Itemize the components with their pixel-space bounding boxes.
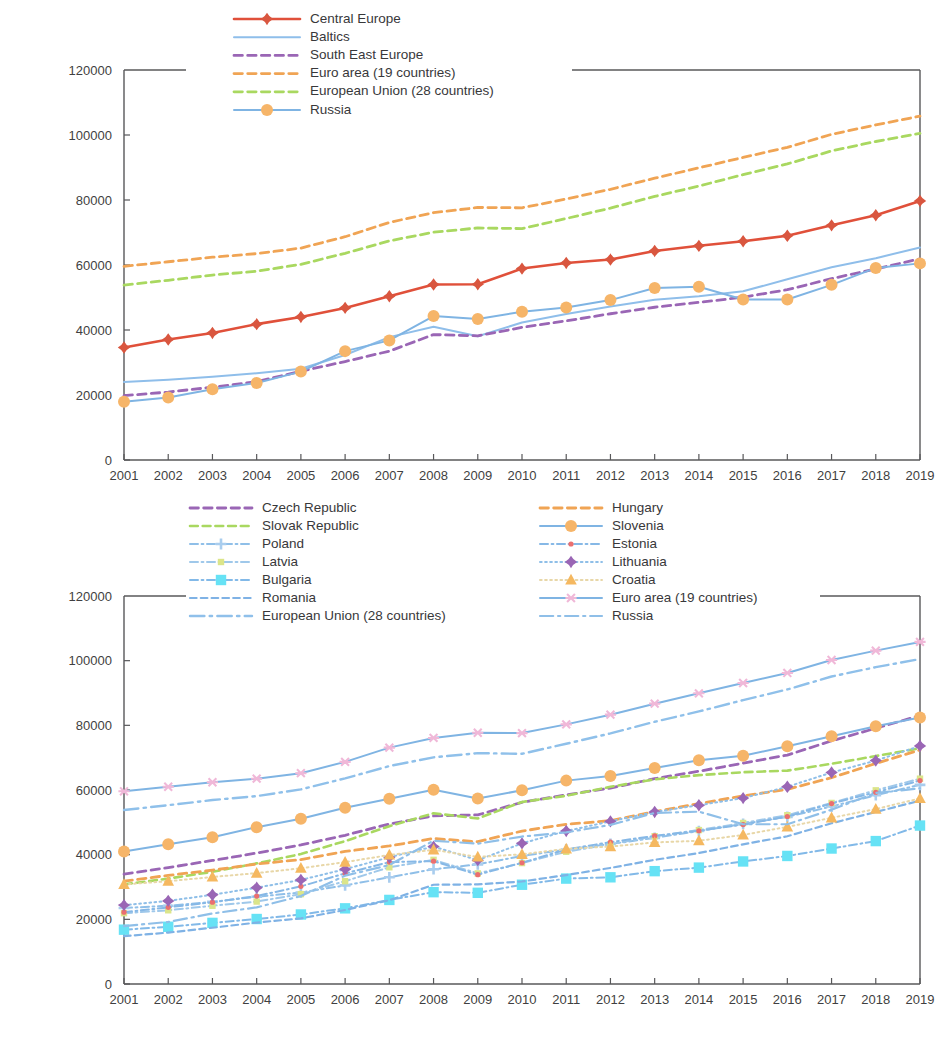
legend-label: Estonia bbox=[612, 536, 658, 551]
series-layer bbox=[118, 116, 926, 408]
x-tick-label: 2009 bbox=[463, 992, 492, 1007]
y-tick-label: 20000 bbox=[76, 912, 112, 927]
x-tick-label: 2013 bbox=[640, 468, 669, 483]
data-point-marker bbox=[218, 559, 224, 565]
data-point-marker bbox=[427, 278, 439, 290]
data-point-marker bbox=[516, 837, 528, 849]
data-point-marker bbox=[914, 792, 926, 803]
data-point-marker bbox=[207, 778, 218, 786]
data-point-marker bbox=[473, 888, 483, 898]
data-point-marker bbox=[785, 814, 790, 819]
legend-label: Lithuania bbox=[612, 554, 667, 569]
data-point-marker bbox=[870, 720, 882, 732]
y-tick-label: 60000 bbox=[76, 258, 112, 273]
data-point-marker bbox=[516, 784, 528, 796]
legend-swatch bbox=[234, 104, 300, 116]
data-point-marker bbox=[649, 700, 660, 708]
data-point-marker bbox=[295, 366, 307, 378]
data-point-marker bbox=[648, 245, 660, 257]
x-tick-label: 2018 bbox=[861, 992, 890, 1007]
x-axis-ticks: 2001200220032004200520062007200820092010… bbox=[110, 978, 935, 1007]
x-tick-label: 2014 bbox=[684, 992, 713, 1007]
data-point-marker bbox=[826, 812, 838, 823]
data-point-marker bbox=[516, 306, 528, 318]
data-point-marker bbox=[118, 396, 130, 408]
data-point-marker bbox=[826, 656, 837, 664]
x-tick-label: 2019 bbox=[906, 992, 935, 1007]
data-point-marker bbox=[340, 758, 351, 766]
data-point-marker bbox=[216, 575, 226, 585]
countries-chart-legend: Czech RepublicSlovak RepublicPolandLatvi… bbox=[190, 500, 758, 623]
data-point-marker bbox=[565, 556, 577, 568]
data-point-marker bbox=[254, 893, 259, 898]
x-tick-label: 2015 bbox=[729, 992, 758, 1007]
data-point-marker bbox=[826, 843, 836, 853]
data-point-marker bbox=[604, 253, 616, 265]
data-point-marker bbox=[206, 383, 218, 395]
data-point-marker bbox=[475, 872, 480, 877]
data-point-marker bbox=[383, 793, 395, 805]
data-point-marker bbox=[339, 345, 351, 357]
data-point-marker bbox=[295, 813, 307, 825]
x-axis-ticks: 2001200220032004200520062007200820092010… bbox=[110, 454, 935, 483]
x-tick-label: 2009 bbox=[463, 468, 492, 483]
data-point-marker bbox=[250, 881, 262, 893]
x-tick-label: 2016 bbox=[773, 468, 802, 483]
data-point-marker bbox=[737, 235, 749, 247]
data-point-marker bbox=[383, 290, 395, 302]
countries-chart-panel: 0200004000060000800001000001200002001200… bbox=[0, 500, 936, 1056]
legend-label: European Union (28 countries) bbox=[262, 608, 446, 623]
data-point-marker bbox=[649, 282, 661, 294]
data-point-marker bbox=[342, 878, 348, 884]
data-point-marker bbox=[339, 302, 351, 314]
y-tick-label: 80000 bbox=[76, 718, 112, 733]
legend-label: Euro area (19 countries) bbox=[310, 65, 456, 80]
series-russia bbox=[118, 257, 926, 407]
legend-label: Euro area (19 countries) bbox=[612, 590, 758, 605]
data-point-marker bbox=[693, 689, 704, 697]
x-tick-label: 2003 bbox=[198, 992, 227, 1007]
x-tick-label: 2006 bbox=[331, 468, 360, 483]
data-point-marker bbox=[782, 669, 793, 677]
data-point-marker bbox=[914, 195, 926, 207]
x-tick-label: 2001 bbox=[110, 992, 139, 1007]
legend-label: Bulgaria bbox=[262, 572, 312, 587]
data-point-marker bbox=[825, 219, 837, 231]
x-tick-label: 2008 bbox=[419, 992, 448, 1007]
data-point-marker bbox=[251, 821, 263, 833]
data-point-marker bbox=[162, 392, 174, 404]
x-tick-label: 2012 bbox=[596, 992, 625, 1007]
data-point-marker bbox=[781, 230, 793, 242]
data-point-marker bbox=[118, 845, 130, 857]
x-tick-label: 2008 bbox=[419, 468, 448, 483]
legend-label: Slovak Republic bbox=[262, 518, 359, 533]
series-line bbox=[124, 263, 920, 401]
data-point-marker bbox=[738, 679, 749, 687]
legend-label: Croatia bbox=[612, 572, 656, 587]
legend-label: Latvia bbox=[262, 554, 299, 569]
data-point-marker bbox=[560, 775, 572, 787]
x-tick-label: 2002 bbox=[154, 468, 183, 483]
legend-label: Central Europe bbox=[310, 11, 401, 26]
data-point-marker bbox=[568, 541, 573, 546]
data-point-marker bbox=[519, 860, 524, 865]
data-point-marker bbox=[295, 862, 307, 873]
legend-swatch bbox=[234, 13, 300, 25]
legend-swatch bbox=[540, 541, 602, 546]
data-point-marker bbox=[206, 889, 218, 901]
data-point-marker bbox=[516, 262, 528, 274]
x-tick-label: 2005 bbox=[286, 468, 315, 483]
series-line bbox=[124, 116, 920, 266]
legend-label: Russia bbox=[612, 608, 654, 623]
data-point-marker bbox=[261, 13, 273, 25]
y-tick-label: 120000 bbox=[69, 63, 112, 78]
x-tick-label: 2017 bbox=[817, 992, 846, 1007]
data-point-marker bbox=[781, 740, 793, 752]
x-tick-label: 2001 bbox=[110, 468, 139, 483]
data-point-marker bbox=[871, 836, 881, 846]
data-point-marker bbox=[261, 104, 273, 116]
x-tick-label: 2002 bbox=[154, 992, 183, 1007]
data-point-marker bbox=[516, 729, 527, 737]
y-tick-label: 40000 bbox=[76, 323, 112, 338]
x-tick-label: 2004 bbox=[242, 992, 271, 1007]
